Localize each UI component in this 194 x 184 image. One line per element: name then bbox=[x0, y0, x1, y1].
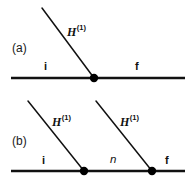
panel-b-hamiltonian-order-right: (1) bbox=[130, 113, 139, 122]
panel-b-tag: (b) bbox=[12, 134, 27, 148]
panel-a-graphics bbox=[11, 8, 185, 82]
panel-b-vertex-first bbox=[80, 167, 88, 175]
panel-a-tag: (a) bbox=[12, 41, 27, 55]
panel-b-label-intermediate: n bbox=[110, 153, 116, 165]
panel-a-label-final: f bbox=[135, 60, 139, 72]
panel-a-hamiltonian-base: H bbox=[67, 25, 76, 39]
panel-a-label-initial: i bbox=[44, 60, 47, 72]
panel-b-vertex-second bbox=[148, 167, 156, 175]
panel-b-hamiltonian-order-left: (1) bbox=[62, 113, 71, 122]
panel-b-interaction-line-left bbox=[28, 101, 84, 171]
panel-b-label-initial: i bbox=[42, 154, 45, 166]
panel-a-interaction-line bbox=[42, 8, 94, 78]
panel-a-hamiltonian-label: H(1) bbox=[67, 25, 86, 38]
panel-b-graphics bbox=[11, 101, 185, 175]
panel-b-hamiltonian-label-left: H(1) bbox=[52, 115, 71, 128]
figure-root: (a) i f H(1) (b) i n f H(1) H(1) bbox=[0, 0, 194, 184]
panel-b-hamiltonian-label-right: H(1) bbox=[120, 115, 139, 128]
panel-b-hamiltonian-base-left: H bbox=[52, 115, 61, 129]
panel-a-hamiltonian-order: (1) bbox=[77, 23, 86, 32]
panel-b-label-final: f bbox=[165, 154, 169, 166]
panel-b-interaction-line-right bbox=[96, 101, 152, 171]
panel-b-hamiltonian-base-right: H bbox=[120, 115, 129, 129]
panel-a-vertex bbox=[90, 74, 98, 82]
